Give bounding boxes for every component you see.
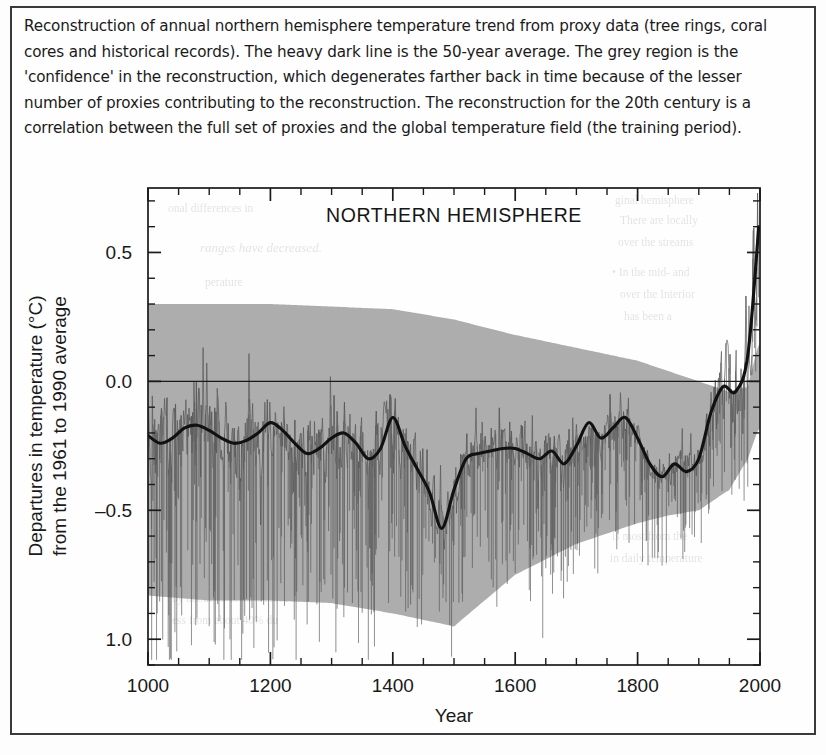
y-axis-title-line-2: from the 1961 to 1990 average: [49, 296, 70, 556]
svg-text:–0.5: –0.5: [95, 500, 132, 521]
svg-text:over the streams: over the streams: [618, 236, 694, 248]
figure-caption: Reconstruction of annual northern hemisp…: [24, 14, 786, 142]
svg-text:onal differences in: onal differences in: [168, 202, 254, 214]
chart-svg: ginal hemisphere There are locally over …: [0, 176, 806, 726]
svg-text:in daily temperature: in daily temperature: [610, 552, 703, 565]
figure-page: Reconstruction of annual northern hemisp…: [0, 0, 826, 755]
svg-text:There are locally: There are locally: [620, 214, 698, 227]
svg-text:1600: 1600: [494, 675, 536, 696]
temperature-reconstruction-chart: ginal hemisphere There are locally over …: [0, 176, 806, 726]
svg-text:0.5: 0.5: [106, 242, 132, 263]
svg-text:1800: 1800: [616, 675, 658, 696]
svg-text:1200: 1200: [249, 675, 291, 696]
svg-text:has been a: has been a: [624, 310, 672, 322]
x-axis-title: Year: [435, 705, 474, 726]
chart-title: NORTHERN HEMISPHERE: [326, 204, 582, 226]
svg-text:ranges have decreased.: ranges have decreased.: [200, 240, 322, 255]
svg-text:2000: 2000: [739, 675, 781, 696]
svg-text:• In the mid- and: • In the mid- and: [612, 266, 690, 278]
svg-text:0.0: 0.0: [106, 371, 132, 392]
svg-text:1.0: 1.0: [106, 629, 132, 650]
svg-text:perature: perature: [205, 276, 243, 289]
svg-text:is most from the: is most from the: [612, 530, 687, 542]
svg-text:1400: 1400: [372, 675, 414, 696]
svg-text:ginal hemisphere: ginal hemisphere: [615, 194, 694, 207]
svg-text:1000: 1000: [127, 675, 169, 696]
svg-text:ess from about 40% du: ess from about 40% du: [172, 614, 278, 626]
y-axis-title-line-1: Departures in temperature (°C): [25, 295, 46, 556]
svg-text:over the Interior: over the Interior: [620, 288, 695, 300]
